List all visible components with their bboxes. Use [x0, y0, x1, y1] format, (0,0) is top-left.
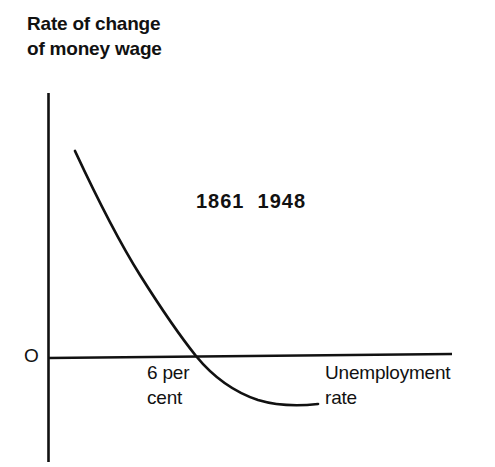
y-axis-title-line1: Rate of change — [27, 13, 160, 34]
x-axis-line — [48, 354, 452, 358]
phillips-curve-figure: Rate of changeof money wage O 1861 1948 … — [0, 0, 495, 467]
threshold-label-line2: cent — [147, 387, 182, 408]
x-axis-title-line2: rate — [325, 387, 357, 408]
x-axis-title-line1: Unemployment — [325, 362, 450, 383]
x-axis-title: Unemploymentrate — [325, 360, 450, 410]
origin-label: O — [24, 344, 39, 367]
y-axis-title-line2: of money wage — [27, 38, 162, 59]
threshold-label: 6 percent — [147, 360, 189, 410]
y-axis-title: Rate of changeof money wage — [27, 11, 162, 61]
series-annotation-years: 1861 1948 — [196, 189, 306, 213]
threshold-label-line1: 6 per — [147, 362, 189, 383]
